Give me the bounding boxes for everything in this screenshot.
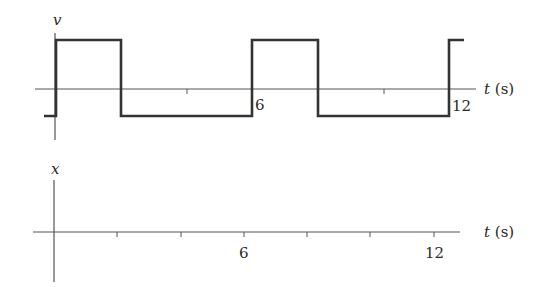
tick-label-12-top: 12 — [452, 97, 471, 115]
position-plot: x t (s) 6 12 — [33, 160, 514, 282]
t-label-bottom: t (s) — [484, 223, 514, 241]
x-label: x — [51, 160, 60, 178]
t-label-top: t (s) — [484, 80, 514, 98]
velocity-plot: v t (s) 6 12 — [35, 11, 514, 140]
tick-label-12-bottom: 12 — [425, 244, 444, 262]
velocity-square-wave — [44, 40, 464, 116]
figure: v t (s) 6 12 x t (s) 6 12 — [0, 0, 540, 287]
tick-label-6-bottom: 6 — [239, 244, 249, 262]
v-label: v — [53, 11, 62, 29]
tick-label-6-top: 6 — [255, 96, 265, 114]
